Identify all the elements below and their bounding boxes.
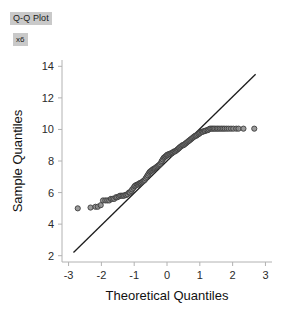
- y-tick-label: 10: [42, 123, 54, 135]
- plot-canvas: 2468101214 -3-2-10123 Theoretical Quanti…: [0, 0, 281, 322]
- x-tick-label: 1: [197, 269, 203, 281]
- y-tick-label: 4: [48, 218, 54, 230]
- y-axis-tickmarks: [58, 66, 62, 255]
- data-point: [252, 126, 257, 131]
- x-axis-tickmarks: [69, 262, 266, 266]
- y-tick-label: 8: [48, 155, 54, 167]
- data-point: [241, 126, 246, 131]
- reference-line: [73, 74, 255, 252]
- x-tick-label: -3: [64, 269, 74, 281]
- x-axis-title: Theoretical Quantiles: [106, 288, 229, 303]
- x-axis-tick-labels: -3-2-10123: [64, 269, 269, 281]
- y-axis-tick-labels: 2468101214: [42, 60, 54, 261]
- x-tick-label: 2: [230, 269, 236, 281]
- qq-plot-figure: Q-Q Plot x6 2468101214 -3-2-10123 Theore…: [0, 0, 281, 322]
- y-tick-label: 14: [42, 60, 54, 72]
- x-tick-label: 0: [164, 269, 170, 281]
- y-tick-label: 2: [48, 250, 54, 262]
- y-tick-label: 12: [42, 92, 54, 104]
- scatter-points: [75, 126, 257, 211]
- data-point: [88, 205, 93, 210]
- data-point: [236, 126, 241, 131]
- data-series-layer: [73, 74, 256, 252]
- x-tick-label: -1: [129, 269, 139, 281]
- data-point: [75, 206, 80, 211]
- y-axis-title: Sample Quantiles: [10, 109, 25, 212]
- y-tick-label: 6: [48, 187, 54, 199]
- x-tick-label: -2: [96, 269, 106, 281]
- x-tick-label: 3: [262, 269, 268, 281]
